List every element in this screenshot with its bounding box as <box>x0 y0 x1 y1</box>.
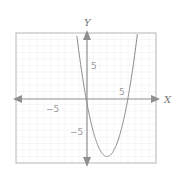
y-axis-label: Y <box>84 17 92 28</box>
x-axis-label: X <box>163 94 172 105</box>
y-tick-label-neg5: −5 <box>70 127 83 137</box>
y-axis-up-arrow-icon <box>83 30 91 40</box>
x-axis-left-arrow-icon <box>13 95 22 103</box>
y-axis-down-arrow-icon <box>83 157 91 167</box>
graph: −5 5 5 −5 X Y <box>0 0 182 177</box>
x-tick-label-neg5: −5 <box>46 104 59 114</box>
y-tick-label-5: 5 <box>91 61 97 71</box>
x-tick-label-5: 5 <box>119 87 125 97</box>
